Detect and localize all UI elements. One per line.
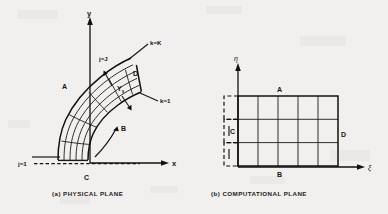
physical-j-min-label: j=1 xyxy=(17,160,27,167)
physical-k-max-label: k=K xyxy=(150,39,162,46)
physical-corner-d-label: D xyxy=(133,70,138,77)
computational-corner-b-label: B xyxy=(277,171,282,178)
computational-eta-axis-label: η xyxy=(234,55,238,63)
paper-background xyxy=(0,0,388,214)
physical-corner-a-label: A xyxy=(62,83,67,90)
physical-corner-c-label: C xyxy=(84,174,89,181)
physical-j-max-label: j=J xyxy=(98,55,108,62)
computational-corner-d-label: D xyxy=(341,131,346,138)
computational-corner-c-label: C xyxy=(230,128,235,135)
physical-k-min-label: k=1 xyxy=(160,97,171,104)
physical-plane-caption: (a) PHYSICAL PLANE xyxy=(52,190,123,197)
physical-corner-b-label: B xyxy=(121,125,126,132)
figure-canvas: y x xyxy=(0,0,388,214)
computational-corner-a-label: A xyxy=(277,86,282,93)
computational-plane-caption: (b) COMPUTATIONAL PLANE xyxy=(211,190,307,197)
